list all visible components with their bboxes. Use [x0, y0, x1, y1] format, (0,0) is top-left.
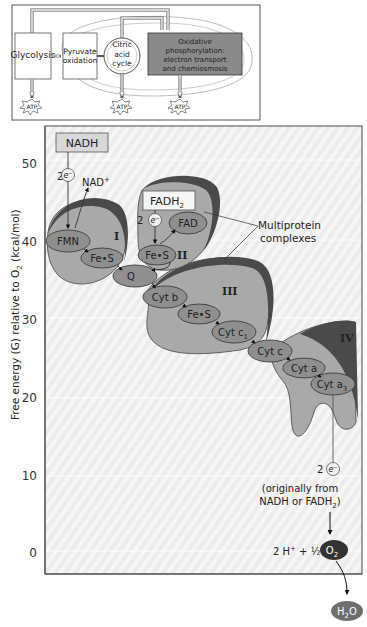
tick-20: 20	[22, 391, 37, 405]
complex-iii-label: III	[222, 285, 237, 298]
svg-text:Fe•S: Fe•S	[90, 253, 114, 264]
origin-note-line-1: (originally from	[262, 483, 338, 494]
svg-text:cycle: cycle	[112, 59, 132, 68]
tick-40: 40	[22, 235, 37, 249]
svg-text:2: 2	[137, 215, 143, 226]
svg-text:ATP: ATP	[175, 103, 186, 110]
y-axis-label-text: Free energy (G) relative to O	[9, 270, 21, 420]
y-axis-ticks: 50 40 30 20 10 0	[22, 157, 37, 560]
svg-text:phosphorylation:: phosphorylation:	[166, 47, 225, 55]
svg-text:ATP: ATP	[117, 103, 128, 110]
svg-text:oxidation: oxidation	[63, 56, 98, 65]
carrier-ubiquinone-q	[113, 265, 157, 287]
svg-text:and chemiosmosis: and chemiosmosis	[162, 65, 227, 73]
svg-text:Oxidative: Oxidative	[178, 38, 211, 46]
svg-text:electron transport: electron transport	[163, 56, 226, 64]
svg-text:acid: acid	[114, 50, 130, 59]
svg-text:FMN: FMN	[57, 236, 79, 247]
svg-text:ATP: ATP	[27, 103, 38, 110]
reaction-label: 2 H+ + ½	[273, 545, 321, 557]
svg-text:Multiprotein: Multiprotein	[258, 219, 321, 231]
svg-text:Cyt b: Cyt b	[152, 292, 178, 303]
svg-text:Fe•S: Fe•S	[187, 309, 211, 320]
svg-text:2: 2	[317, 464, 323, 475]
svg-text:Citric: Citric	[112, 40, 132, 49]
complex-ii-label: II	[177, 249, 187, 262]
svg-text:complexes: complexes	[260, 232, 316, 244]
tick-50: 50	[22, 157, 37, 171]
stage-glycolysis-label: Glycolysis	[11, 50, 56, 60]
fadh2-label: FADH2	[150, 195, 184, 210]
electron-transport-diagram: 50 40 30 20 10 0 Free energy (G) relativ…	[0, 0, 367, 627]
svg-text:Q: Q	[127, 271, 135, 282]
svg-text:Cyt c: Cyt c	[257, 346, 283, 357]
svg-text:Cyt a: Cyt a	[291, 363, 317, 374]
complex-i-label: I	[114, 230, 119, 243]
svg-text:Pyruvate: Pyruvate	[63, 47, 97, 56]
tick-10: 10	[22, 469, 37, 483]
tick-30: 30	[22, 313, 37, 327]
svg-text:Fe•S: Fe•S	[145, 250, 169, 261]
tick-0: 0	[29, 546, 37, 560]
respiration-overview-inset: Glycolysis Pyruvate oxidation Citric aci…	[11, 5, 260, 120]
nadh-label: NADH	[66, 137, 99, 150]
complex-iv-label: IV	[340, 332, 354, 345]
svg-text:FAD: FAD	[178, 218, 198, 229]
